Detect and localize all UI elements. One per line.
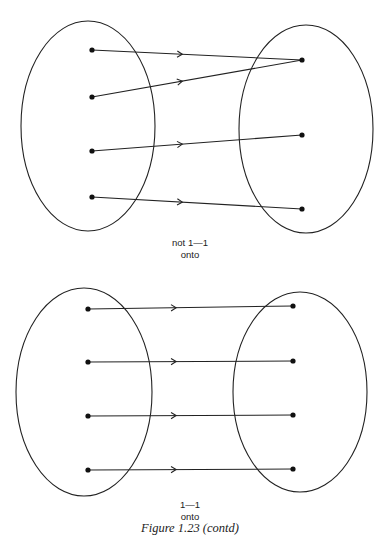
mapping-arrow-line xyxy=(88,361,293,362)
codomain-element-dot xyxy=(290,412,295,417)
top-diagram-label: not 1—1 onto xyxy=(130,237,250,261)
codomain-set-ellipse xyxy=(233,292,367,492)
domain-element-dot xyxy=(89,47,94,52)
domain-set-ellipse xyxy=(16,288,152,496)
mapping-arrow-line xyxy=(88,306,293,309)
mapping-arrow-line xyxy=(88,469,293,470)
mapping-arrow-line xyxy=(92,60,302,97)
mapping-arrow-line xyxy=(92,197,302,209)
mapping-arrow-line xyxy=(92,50,302,60)
top-label-line1: not 1—1 xyxy=(130,237,250,249)
mapping-arrow-line xyxy=(92,135,302,151)
domain-element-dot xyxy=(89,194,94,199)
codomain-element-dot xyxy=(290,466,295,471)
codomain-element-dot xyxy=(299,57,304,62)
codomain-element-dot xyxy=(299,206,304,211)
mapping-arrow-line xyxy=(88,415,293,416)
bottom-diagram-label: 1—1 onto xyxy=(130,499,250,523)
codomain-element-dot xyxy=(299,132,304,137)
mapping-diagrams xyxy=(0,0,379,541)
top-label-line2: onto xyxy=(130,249,250,261)
codomain-set-ellipse xyxy=(239,25,373,233)
codomain-element-dot xyxy=(290,358,295,363)
domain-element-dot xyxy=(85,306,90,311)
figure-caption: Figure 1.23 (contd) xyxy=(90,521,290,536)
bottom-label-line1: 1—1 xyxy=(130,499,250,511)
domain-element-dot xyxy=(85,467,90,472)
domain-element-dot xyxy=(85,359,90,364)
domain-element-dot xyxy=(89,148,94,153)
domain-element-dot xyxy=(89,94,94,99)
codomain-element-dot xyxy=(290,303,295,308)
domain-element-dot xyxy=(85,413,90,418)
